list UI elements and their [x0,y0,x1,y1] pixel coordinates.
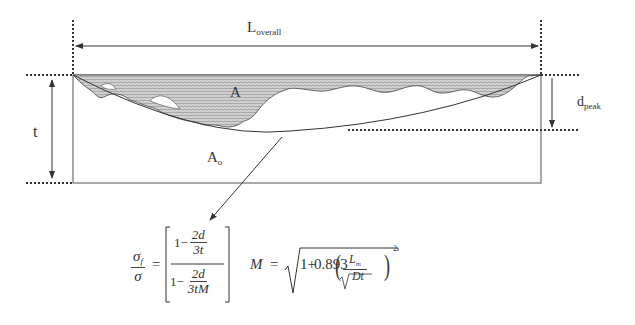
depth-label-sub: peak [584,101,601,111]
folias-inner-fraction: Lm Dt [343,253,367,283]
stress-ratio-lhs: σf σ [131,248,145,284]
denominator-2d: 2d [190,267,207,282]
folias-exponent: 2 [393,244,397,253]
numerator-one-minus: 1− [174,235,188,251]
diameter-thickness-product: Dt [344,270,366,283]
sigma-symbol: σ [132,268,143,285]
folias-lhs: M [250,256,263,273]
numerator-2d: 2d [190,228,207,243]
right-bracket [225,227,229,302]
folias-left-paren: ( [335,248,341,282]
original-area-sub: o [218,157,223,167]
corroded-area-region [73,75,541,127]
denominator-one-minus: 1− [170,274,184,290]
denominator-3tM: 3tM [186,282,211,296]
numerator-3t: 3t [191,243,205,257]
corroded-area-label: A [230,85,241,100]
length-m-subscript: m [356,260,361,268]
original-area-main: A [207,149,218,165]
length-overall-label: Loverall [247,20,281,37]
depth-peak-label: dpeak [577,95,601,111]
bracket-denominator: 1− 2d 3tM [170,267,211,297]
length-m-symbol: L [349,252,356,266]
depth-label-main: d [577,94,584,109]
thickness-label: t [33,124,37,140]
length-label-sub: overall [256,27,281,37]
original-area-label: Ao [207,150,222,167]
stress-equals-sign: = [152,256,160,273]
folias-right-paren: ) [384,248,390,282]
bracket-numerator: 1− 2d 3t [174,228,207,258]
sigma-f-subscript: f [140,256,143,266]
length-label-main: L [247,19,256,35]
corrosion-diagram-canvas [0,0,635,325]
folias-equals-sign: = [270,256,278,273]
